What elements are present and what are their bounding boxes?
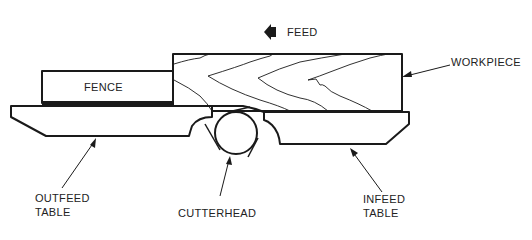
fence-base-strip [42,101,173,105]
infeed-table-shape [264,112,409,144]
infeed-table-label-line1: INFEED [363,192,405,206]
fence-label: FENCE [84,80,123,94]
cutterhead-leader-arrow [220,156,232,196]
outfeed-leader-arrow [62,138,96,188]
infeed-leader-arrow [350,148,382,192]
workpiece-shape [173,54,402,111]
infeed-table-label-line2: TABLE [363,206,399,220]
outfeed-table-label-line2: TABLE [35,205,71,219]
workpiece-label: WORKPIECE [451,55,521,69]
left-arrow-icon [264,24,276,40]
outfeed-table-shape [11,106,212,136]
feed-label: FEED [287,25,318,39]
outfeed-table-label-line1: OUTFEED [35,191,90,205]
workpiece-leader-arrow [402,65,450,77]
cutterhead-label: CUTTERHEAD [178,206,256,220]
